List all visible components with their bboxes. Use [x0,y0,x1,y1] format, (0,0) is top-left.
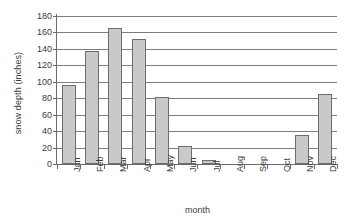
y-tick-label: 140 [22,44,52,53]
x-tick-label-jan: Jan [73,157,82,172]
x-tick-label-dec: Dec [329,156,338,172]
y-tick-label: 160 [22,28,52,37]
y-axis-tick-labels: 020406080100120140160180 [22,16,52,164]
bar-jan [62,85,76,164]
y-tick-label: 100 [22,77,52,86]
x-tick-label-nov: Nov [306,156,315,172]
y-tick-label: 60 [22,110,52,119]
bar-may [155,97,169,164]
x-tick-label-feb: Feb [96,156,105,172]
bars-group [57,16,337,164]
y-tick-label: 20 [22,143,52,152]
bar-feb [85,51,99,164]
x-tick-label-jun: Jun [189,157,198,172]
bar-mar [108,28,122,164]
x-tick-label-apr: Apr [143,158,152,172]
x-tick-label-sep: Sep [259,156,268,172]
snow-depth-bar-chart: snow depth (inches) 02040608010012014016… [0,0,349,221]
bar-apr [132,39,146,164]
y-tick-label: 180 [22,12,52,21]
x-tick-label-oct: Oct [283,158,292,172]
y-tick-label: 0 [22,160,52,169]
x-tick-mark [57,165,58,169]
x-tick-label-aug: Aug [236,156,245,172]
y-tick-label: 80 [22,94,52,103]
y-tick-label: 40 [22,127,52,136]
plot-area [57,16,337,164]
x-tick-label-may: May [166,155,175,172]
x-axis-title: month [57,205,338,215]
y-tick-label: 120 [22,61,52,70]
x-tick-label-jul: Jul [213,160,222,172]
x-tick-label-mar: Mar [119,157,128,173]
bar-dec [318,94,332,164]
